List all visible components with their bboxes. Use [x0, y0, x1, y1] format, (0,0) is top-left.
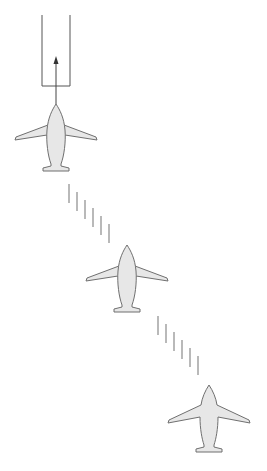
taxi-diagram [0, 0, 267, 471]
airplane-icon [168, 385, 250, 452]
taxi-path-dashes [69, 184, 109, 243]
airplane-icon [15, 104, 97, 171]
taxi-path-dashes [158, 316, 198, 375]
direction-arrow-icon [54, 56, 59, 104]
airplane-icon [86, 245, 168, 312]
